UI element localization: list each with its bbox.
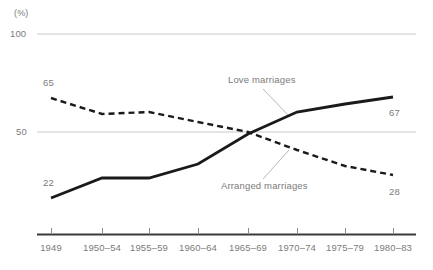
x-axis-label-4: 1965–69: [229, 243, 267, 253]
value-label-arranged-end: 28: [389, 187, 400, 197]
x-axis-label-2: 1955–59: [130, 243, 168, 253]
series-annotation-love-marriages: Love marriages: [228, 75, 296, 85]
value-label-love-end: 67: [389, 108, 400, 118]
leader-line-arranged: [263, 150, 289, 179]
leader-line-love: [263, 89, 290, 117]
x-axis-label-5: 1970–74: [278, 243, 316, 253]
value-label-love-start: 22: [43, 178, 54, 188]
series-line-arranged-marriages: [51, 98, 393, 175]
chart-plot-area: [0, 0, 433, 270]
x-axis-ticks: [52, 228, 394, 233]
x-axis-label-7: 1980–83: [374, 243, 412, 253]
x-axis-label-6: 1975–79: [326, 243, 364, 253]
x-axis-label-0: 1949: [40, 243, 62, 253]
series-annotation-arranged-marriages: Arranged marriages: [221, 181, 308, 191]
y-axis-tick-100: 100: [10, 29, 26, 39]
value-label-arranged-start: 65: [43, 78, 54, 88]
x-axis-label-3: 1960–64: [179, 243, 217, 253]
chart-container: (%) 100 50 65 22 67 28 Love marriages Ar…: [0, 0, 433, 270]
y-axis-unit-label: (%): [14, 9, 28, 18]
y-axis-tick-50: 50: [16, 127, 27, 137]
x-axis-label-1: 1950–54: [83, 243, 121, 253]
